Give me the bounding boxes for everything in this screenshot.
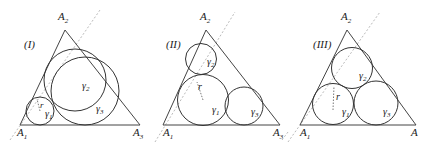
vertex-label-a1: A1 (162, 126, 173, 141)
radius-label: r (40, 100, 44, 110)
vertex-label-a3: A (410, 126, 418, 138)
dashed-bisector-line (155, 12, 235, 142)
circle-label-gamma-1: γ1 (212, 104, 219, 117)
diagram-caption: (III) (313, 38, 332, 51)
radius-label: r (336, 91, 340, 102)
diagram-caption: (I) (24, 38, 35, 51)
circle-label-gamma-3: γ3 (251, 106, 259, 119)
diagram-1: (I) A2 A1 A3 r γ1 γ2 γ3 (10, 10, 144, 141)
circle-gamma-3 (225, 87, 263, 125)
vertex-label-a3: A3 (272, 126, 284, 141)
diagram-2: (II) A2 A1 A3 r γ1 γ2 γ3 (155, 10, 288, 142)
circle-label-gamma-3: γ3 (96, 103, 104, 116)
vertex-label-a1: A1 (299, 126, 310, 141)
circle-label-gamma-2: γ2 (359, 70, 367, 83)
circle-label-gamma-2: γ2 (82, 80, 90, 93)
vertex-label-a2: A2 (199, 10, 211, 25)
triangle-circles-figure: (I) A2 A1 A3 r γ1 γ2 γ3 (II) A2 A1 A3 r … (0, 0, 436, 147)
radius-label: r (198, 81, 202, 92)
circle-label-gamma-1: γ1 (342, 106, 349, 119)
circle-label-gamma-3: γ3 (383, 106, 391, 119)
vertex-label-a3: A3 (132, 126, 144, 141)
diagram-3: (III) A2 A1 A r γ1 γ2 γ3 (288, 10, 418, 142)
vertex-label-a2: A2 (340, 10, 352, 25)
vertex-label-a2: A2 (57, 10, 69, 25)
circle-label-gamma-1: γ1 (45, 108, 52, 121)
circle-label-gamma-2: γ2 (207, 56, 215, 69)
circle-gamma-3 (354, 81, 398, 125)
radius-line (333, 86, 334, 110)
vertex-label-a1: A1 (16, 126, 27, 141)
diagram-caption: (II) (166, 38, 181, 51)
circle-gamma-2 (186, 44, 217, 75)
